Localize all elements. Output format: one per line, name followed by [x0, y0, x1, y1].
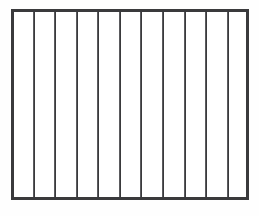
vertical-bar: [162, 12, 164, 197]
vertical-bar: [205, 12, 207, 197]
vertical-bar: [54, 12, 56, 197]
figure-canvas: [0, 0, 259, 216]
vertical-bar: [97, 12, 99, 197]
vertical-bar: [119, 12, 121, 197]
vertical-bar: [227, 12, 229, 197]
vertical-bar: [76, 12, 78, 197]
gate-frame: [11, 9, 249, 200]
vertical-bar: [184, 12, 186, 197]
vertical-bar: [140, 12, 142, 197]
vertical-bars-group: [14, 12, 246, 197]
vertical-bar: [33, 12, 35, 197]
